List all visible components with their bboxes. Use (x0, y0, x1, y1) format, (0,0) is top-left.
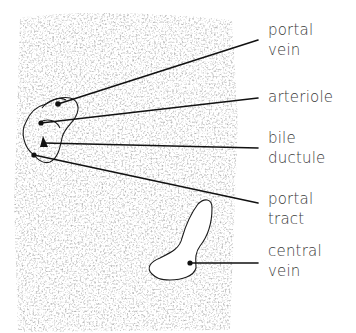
label-bile-ductule: bile ductule (268, 128, 325, 168)
label-arteriole: arteriole (268, 87, 333, 107)
label-portal-tract: portal tract (268, 189, 313, 229)
label-portal-vein: portal vein (268, 20, 313, 60)
label-central-vein: central vein (268, 241, 322, 281)
